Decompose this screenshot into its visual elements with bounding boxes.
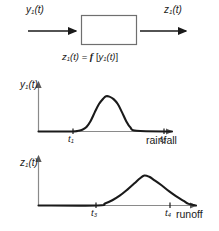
runoff-x-axis-label: runoff	[176, 209, 203, 220]
runoff-tick-label-t4: t4	[165, 208, 171, 219]
rainfall-y-axis-label: y1(t)	[20, 80, 38, 91]
block-diagram-group	[28, 16, 186, 45]
runoff-curve	[39, 175, 197, 205]
output-signal-label: z1(t)	[164, 5, 182, 16]
rainfall-tick-label-t1: t1	[68, 134, 74, 145]
transfer-equation: z1(t) = f [y1(t)]	[62, 52, 118, 63]
runoff-tick-label-t3: t3	[91, 208, 97, 219]
runoff-y-axis-label: z1(t)	[20, 158, 38, 169]
rainfall-curve	[39, 96, 173, 131]
rainfall-x-axis-label: rainfall	[146, 135, 177, 146]
chart-runoff-axes	[39, 156, 197, 208]
figure-canvas: y1(t) z1(t) z1(t) = f [y1(t)] y1(t) t1 t…	[0, 0, 219, 231]
figure-vector-layer	[0, 0, 219, 231]
input-signal-label: y1(t)	[26, 5, 44, 16]
chart-rainfall-axes	[39, 82, 173, 134]
system-block	[82, 16, 137, 45]
